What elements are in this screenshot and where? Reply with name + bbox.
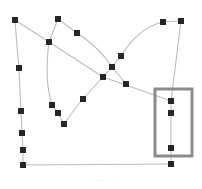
node-k[interactable] — [123, 81, 129, 87]
node-w[interactable] — [168, 161, 174, 167]
node-u[interactable] — [168, 110, 174, 116]
node-r[interactable] — [20, 147, 26, 153]
node-l[interactable] — [49, 102, 55, 108]
edge — [15, 20, 19, 68]
node-n[interactable] — [61, 121, 67, 127]
node-b[interactable] — [55, 16, 61, 22]
node-d[interactable] — [74, 30, 80, 36]
node-s[interactable] — [20, 162, 26, 168]
node-m[interactable] — [55, 110, 61, 116]
node-h[interactable] — [178, 18, 184, 24]
node-g[interactable] — [160, 19, 166, 25]
node-i[interactable] — [118, 53, 124, 59]
edge — [47, 42, 52, 105]
node-t[interactable] — [168, 98, 174, 104]
caption: — — — — [0, 177, 202, 187]
edge — [64, 99, 83, 124]
node-j[interactable] — [109, 64, 115, 70]
edge — [77, 33, 112, 67]
node-p[interactable] — [18, 108, 24, 114]
node-v[interactable] — [168, 145, 174, 151]
node-e[interactable] — [16, 65, 22, 71]
edge — [49, 19, 58, 42]
graph-canvas — [0, 0, 202, 189]
nodes-layer — [12, 16, 184, 168]
node-f[interactable] — [100, 74, 106, 80]
node-o[interactable] — [80, 96, 86, 102]
edge — [15, 20, 49, 42]
edge — [121, 22, 163, 56]
node-c[interactable] — [46, 39, 52, 45]
edge — [23, 164, 171, 165]
node-a[interactable] — [12, 17, 18, 23]
node-q[interactable] — [19, 130, 25, 136]
edge — [83, 77, 103, 99]
